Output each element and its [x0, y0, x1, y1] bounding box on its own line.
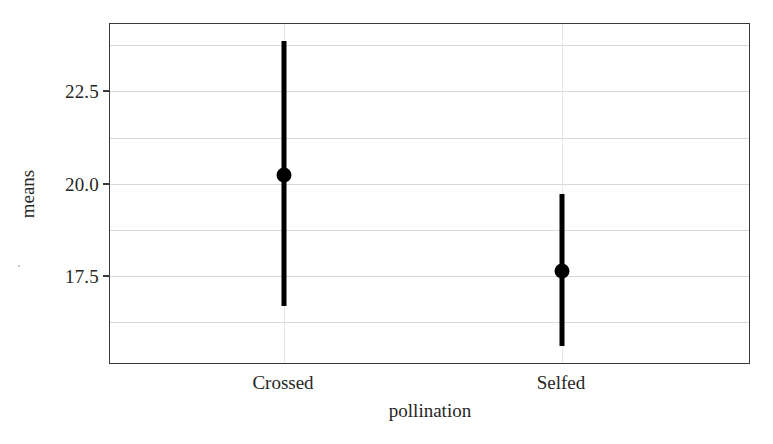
x-tick-label-selfed: Selfed — [537, 372, 586, 394]
gridline-21.25 — [110, 138, 749, 139]
gridline-22.50 — [110, 91, 749, 92]
y-tick-label-22.5: 22.5 — [65, 82, 99, 101]
y-axis-title: means — [17, 170, 39, 219]
y-tick-mark-17.5 — [103, 275, 110, 277]
gridline-16.25 — [110, 322, 749, 323]
x-tick-label-crossed: Crossed — [252, 372, 313, 394]
gridline-18.75 — [110, 230, 749, 231]
gridline-20.00 — [110, 184, 749, 185]
plot-area: 22.5 20.0 17.5 — [109, 23, 750, 364]
x-axis-title: pollination — [389, 400, 471, 422]
gridline-17.50 — [110, 276, 749, 277]
y-tick-mark-22.5 — [103, 90, 110, 92]
scan-artifact-speck — [18, 265, 20, 267]
y-tick-mark-20.0 — [103, 183, 110, 185]
y-tick-label-20.0: 20.0 — [65, 175, 99, 194]
data-point-crossed — [277, 168, 292, 183]
y-tick-label-17.5: 17.5 — [65, 267, 99, 286]
data-point-selfed — [555, 264, 570, 279]
chart-figure: means pollination 22.5 20.0 17.5 — [0, 0, 773, 444]
gridline-23.75 — [110, 45, 749, 46]
